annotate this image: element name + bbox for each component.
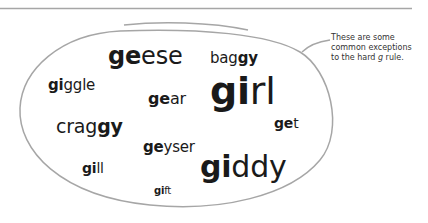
word-get: get — [274, 116, 298, 130]
word-giggle: giggle — [48, 78, 95, 93]
word-craggy: craggy — [56, 117, 123, 136]
annotation-note: These are some common exceptions to the … — [331, 33, 427, 63]
annotation-line-1: These are some — [331, 33, 427, 43]
callout-leader-line — [302, 40, 330, 52]
word-geyser: geyser — [143, 140, 195, 155]
word-gill: gill — [82, 161, 104, 175]
word-geese: geese — [108, 44, 183, 68]
word-baggy: baggy — [210, 51, 258, 66]
word-gift: gift — [154, 186, 171, 196]
annotation-line-2: common exceptions — [331, 43, 427, 53]
annotation-line-3: to the hard g rule. — [331, 53, 427, 63]
bubble-top-arc — [124, 23, 248, 30]
word-gear: gear — [148, 91, 186, 107]
word-giddy: giddy — [200, 152, 287, 182]
word-girl: girl — [210, 72, 276, 110]
